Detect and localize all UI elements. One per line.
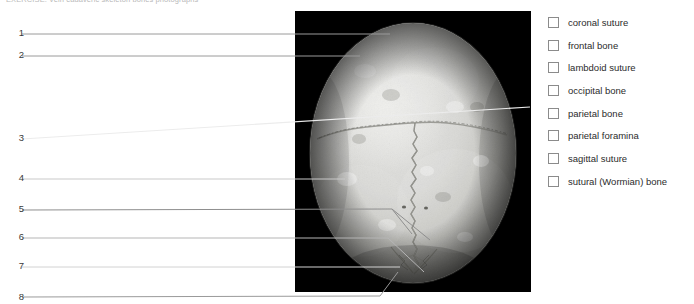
term-row[interactable]: coronal suture bbox=[548, 11, 694, 34]
exercise-page: EXERCISE: Vein cadaveric skeleton bones … bbox=[0, 0, 694, 304]
term-label: sagittal suture bbox=[568, 153, 627, 164]
term-row[interactable]: frontal bone bbox=[548, 34, 694, 57]
term-row[interactable]: sutural (Wormian) bone bbox=[548, 170, 694, 193]
term-label: parietal foramina bbox=[568, 130, 639, 141]
checkbox-occipital-bone[interactable] bbox=[548, 85, 559, 96]
number-label-6: 6 bbox=[10, 232, 24, 242]
term-label: lambdoid suture bbox=[568, 62, 636, 73]
checkbox-sutural-wormian-bone[interactable] bbox=[548, 176, 559, 187]
term-row[interactable]: occipital bone bbox=[548, 79, 694, 102]
checkbox-parietal-bone[interactable] bbox=[548, 108, 559, 119]
term-label: frontal bone bbox=[568, 40, 618, 51]
skull-photograph bbox=[295, 11, 531, 292]
term-row[interactable]: lambdoid suture bbox=[548, 56, 694, 79]
page-caption: EXERCISE: Vein cadaveric skeleton bones … bbox=[6, 0, 306, 4]
term-checklist: coronal suture frontal bone lambdoid sut… bbox=[548, 11, 694, 193]
checkbox-frontal-bone[interactable] bbox=[548, 40, 559, 51]
term-row[interactable]: sagittal suture bbox=[548, 147, 694, 170]
number-label-7: 7 bbox=[10, 261, 24, 271]
checkbox-parietal-foramina[interactable] bbox=[548, 130, 559, 141]
term-row[interactable]: parietal bone bbox=[548, 102, 694, 125]
checkbox-sagittal-suture[interactable] bbox=[548, 153, 559, 164]
checkbox-lambdoid-suture[interactable] bbox=[548, 62, 559, 73]
number-label-4: 4 bbox=[10, 173, 24, 183]
term-row[interactable]: parietal foramina bbox=[548, 124, 694, 147]
term-label: parietal bone bbox=[568, 108, 623, 119]
number-label-1: 1 bbox=[10, 28, 24, 38]
checkbox-coronal-suture[interactable] bbox=[548, 17, 559, 28]
term-label: sutural (Wormian) bone bbox=[568, 176, 667, 187]
number-label-3: 3 bbox=[10, 133, 24, 143]
number-label-2: 2 bbox=[10, 50, 24, 60]
term-label: occipital bone bbox=[568, 85, 626, 96]
number-label-8: 8 bbox=[10, 292, 24, 302]
number-label-5: 5 bbox=[10, 204, 24, 214]
term-label: coronal suture bbox=[568, 17, 628, 28]
